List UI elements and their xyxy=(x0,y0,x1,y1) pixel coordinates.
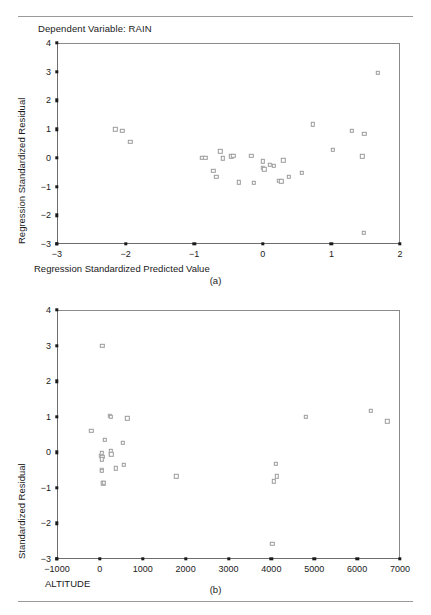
data-point xyxy=(122,463,126,467)
data-point xyxy=(279,179,283,183)
data-point xyxy=(303,415,307,419)
data-point xyxy=(274,474,278,478)
data-point xyxy=(211,169,215,173)
y-axis-title: Standardized Residual xyxy=(16,463,27,559)
x-tick-label: 1000 xyxy=(133,564,153,574)
y-tick-label: 2 xyxy=(46,95,55,105)
y-tick-label: 4 xyxy=(46,305,55,315)
data-point xyxy=(252,181,256,185)
data-point xyxy=(273,461,277,465)
x-tick-mark xyxy=(313,557,316,560)
y-tick-mark xyxy=(55,41,58,44)
y-axis-title: Regression Standardized Residual xyxy=(16,98,27,244)
x-tick-label: 2 xyxy=(397,249,402,259)
data-point xyxy=(270,542,274,546)
x-tick-mark xyxy=(55,242,58,245)
x-tick-label: 3000 xyxy=(218,564,238,574)
data-point xyxy=(331,148,335,152)
data-point xyxy=(376,70,380,74)
data-point xyxy=(89,429,93,433)
y-tick-mark xyxy=(55,522,58,525)
data-point xyxy=(361,230,365,234)
x-tick-mark xyxy=(355,557,358,560)
data-point xyxy=(272,164,276,168)
y-tick-label: −1 xyxy=(41,182,55,192)
data-point xyxy=(261,159,265,163)
y-tick-mark xyxy=(55,451,58,454)
data-point xyxy=(231,154,235,158)
x-tick-label: 1 xyxy=(329,249,334,259)
x-tick-mark xyxy=(398,557,401,560)
y-tick-label: −2 xyxy=(41,210,55,220)
data-point xyxy=(350,128,354,132)
x-tick-mark xyxy=(98,557,101,560)
x-tick-label: −1000 xyxy=(44,564,69,574)
y-tick-mark xyxy=(55,379,58,382)
y-tick-label: −2 xyxy=(41,518,55,528)
y-tick-mark xyxy=(55,344,58,347)
x-tick-label: 5000 xyxy=(304,564,324,574)
data-point xyxy=(113,127,117,131)
x-tick-mark xyxy=(227,557,230,560)
x-tick-label: 0 xyxy=(97,564,102,574)
data-point xyxy=(103,438,107,442)
data-point xyxy=(100,469,104,473)
x-tick-label: 6000 xyxy=(347,564,367,574)
data-point xyxy=(287,174,291,178)
y-tick-mark xyxy=(55,156,58,159)
y-tick-mark xyxy=(55,70,58,73)
data-point xyxy=(102,481,106,485)
data-point xyxy=(281,158,285,162)
x-tick-label: −1 xyxy=(189,249,199,259)
x-tick-label: 7000 xyxy=(390,564,410,574)
data-point xyxy=(237,180,241,184)
data-point xyxy=(221,156,225,160)
x-tick-mark xyxy=(55,557,58,560)
y-tick-mark xyxy=(55,214,58,217)
y-tick-label: −1 xyxy=(41,483,55,493)
x-tick-mark xyxy=(330,242,333,245)
x-tick-label: −3 xyxy=(52,249,62,259)
panel-label-a: (a) xyxy=(0,275,431,286)
data-point xyxy=(360,154,364,158)
data-point xyxy=(262,167,266,171)
y-tick-mark xyxy=(55,99,58,102)
y-tick-mark xyxy=(55,127,58,130)
y-tick-label: −3 xyxy=(41,554,55,564)
x-tick-label: 2000 xyxy=(176,564,196,574)
data-point xyxy=(218,149,222,153)
data-point xyxy=(272,479,276,483)
panel-label-b: (b) xyxy=(0,584,431,595)
y-tick-label: 0 xyxy=(46,447,55,457)
data-point xyxy=(125,416,129,420)
data-point xyxy=(311,122,315,126)
data-point xyxy=(174,474,178,478)
y-tick-label: 3 xyxy=(46,341,55,351)
y-tick-mark xyxy=(55,308,58,311)
x-tick-label: 4000 xyxy=(261,564,281,574)
y-tick-label: 4 xyxy=(46,38,55,48)
y-tick-mark xyxy=(55,486,58,489)
y-tick-label: 2 xyxy=(46,376,55,386)
data-point xyxy=(214,175,218,179)
x-tick-label: −2 xyxy=(120,249,130,259)
x-tick-mark xyxy=(270,557,273,560)
figure-title: Dependent Variable: RAIN xyxy=(38,23,152,34)
data-point xyxy=(385,419,389,423)
x-axis-title: Regression Standardized Predicted Value xyxy=(34,263,210,274)
x-tick-mark xyxy=(192,242,195,245)
y-tick-label: 1 xyxy=(46,412,55,422)
x-tick-mark xyxy=(261,242,264,245)
y-tick-mark xyxy=(55,415,58,418)
data-point xyxy=(300,171,304,175)
data-point xyxy=(362,132,366,136)
data-point xyxy=(369,408,373,412)
data-point xyxy=(120,128,124,132)
data-point xyxy=(203,156,207,160)
data-point xyxy=(128,140,132,144)
plot-frame-b xyxy=(57,310,400,559)
y-tick-label: 1 xyxy=(46,124,55,134)
x-tick-mark xyxy=(184,557,187,560)
x-tick-mark xyxy=(141,557,144,560)
data-point xyxy=(120,440,124,444)
